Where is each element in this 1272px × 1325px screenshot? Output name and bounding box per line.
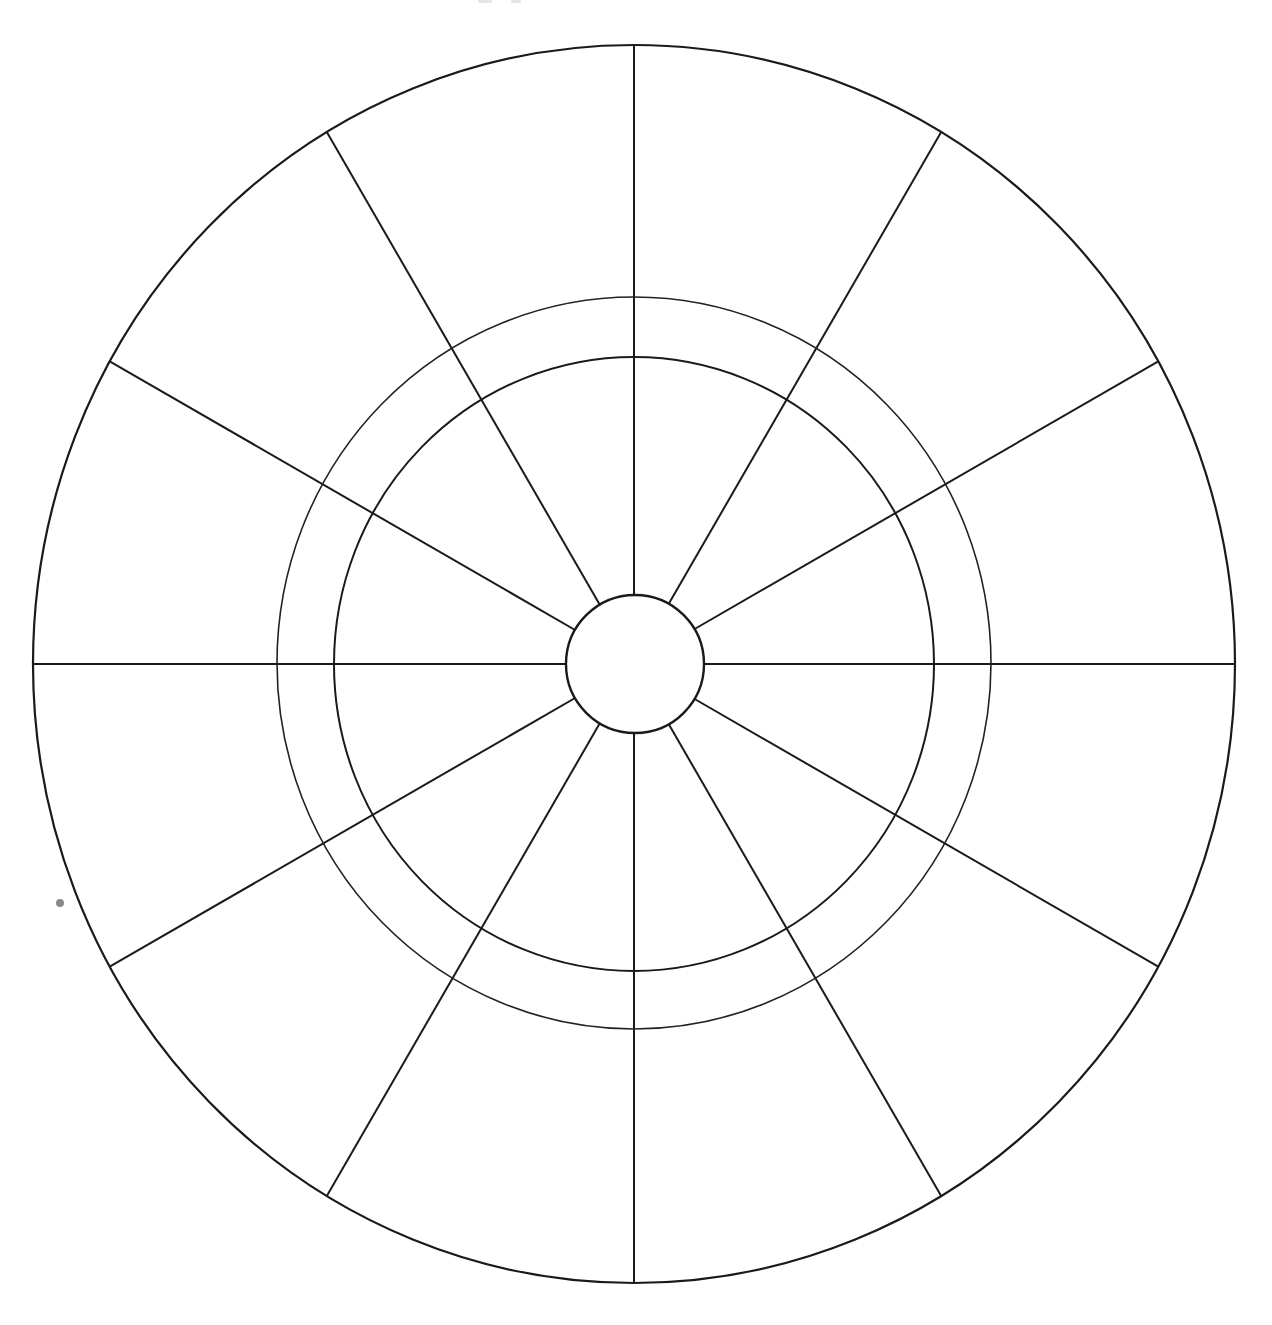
spoke-line [327,132,600,604]
spoke-line [110,699,575,967]
spoke-line [694,699,1159,967]
spoke-line [110,361,575,629]
scan-artifact-top [478,0,492,3]
scan-artifact-dot [56,899,64,907]
spoke-line [669,724,942,1196]
wheel-diagram [0,0,1272,1325]
center-hub [566,595,704,733]
spoke-line [669,132,942,604]
scan-artifact-top [511,0,521,3]
spoke-line [694,361,1159,629]
spoke-line [327,724,600,1196]
